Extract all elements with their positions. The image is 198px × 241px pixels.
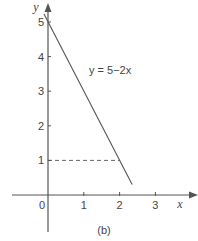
axes: xy	[12, 0, 198, 232]
y-tick-label: 5	[38, 16, 44, 28]
y-tick-label: 3	[38, 85, 44, 97]
x-tick-label: 0	[39, 199, 45, 211]
x-tick-label: 1	[81, 199, 87, 211]
x-axis-label: x	[176, 197, 183, 211]
y-tick-label: 4	[38, 51, 44, 63]
y-axis-arrow	[45, 3, 52, 12]
series-line	[44, 14, 132, 185]
y-tick-label: 1	[38, 154, 44, 166]
ticks: 012312345	[38, 16, 159, 211]
equation-label: y = 5−2x	[89, 64, 132, 76]
marks	[44, 14, 132, 185]
x-axis-arrow	[189, 192, 198, 199]
chart: xy 012312345 y = 5−2x (b)	[0, 0, 198, 241]
x-tick-label: 2	[117, 199, 123, 211]
y-axis-label: y	[32, 0, 39, 14]
caption: (b)	[97, 224, 110, 236]
y-tick-label: 2	[38, 120, 44, 132]
x-tick-label: 3	[152, 199, 158, 211]
